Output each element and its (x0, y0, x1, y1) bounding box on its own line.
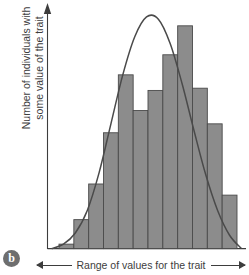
histogram-bar (89, 184, 104, 249)
figure-panel: Number of individuals with some value of… (0, 0, 249, 275)
x-axis-arrow-right (211, 265, 246, 266)
histogram-plot (0, 0, 249, 275)
histogram-bar (104, 133, 119, 249)
y-axis-arrow (44, 3, 51, 249)
panel-label-badge: b (3, 250, 20, 267)
histogram-bar (133, 110, 148, 248)
histogram-bar (222, 195, 237, 248)
x-axis-arrow-left (37, 265, 72, 266)
x-axis-label-text: Range of values for the trait (75, 259, 208, 271)
histogram-bar (178, 26, 193, 249)
x-axis-label: Range of values for the trait (37, 257, 245, 273)
histogram-bar (118, 75, 133, 249)
histogram-bar (148, 90, 163, 248)
histogram-bar (193, 88, 208, 248)
histogram-bar (163, 55, 178, 249)
